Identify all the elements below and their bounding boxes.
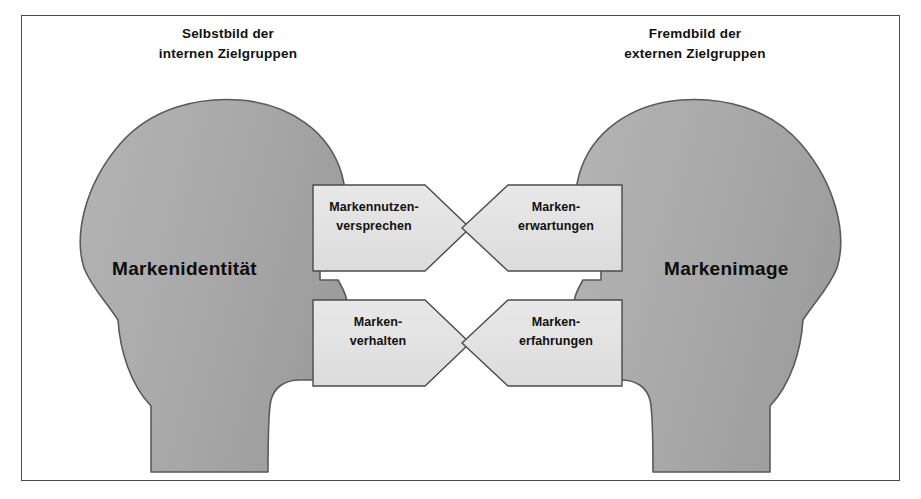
caption-internal-target-groups: Selbstbild der internen Zielgruppen [78,24,378,63]
label-markennutzenversprechen: Markennutzen- versprechen [315,198,433,236]
label-markenerfahrungen: Marken- erfahrungen [492,313,620,351]
diagram-graphics [0,0,921,499]
left-head-silhouette [80,100,348,472]
label-markenimage: Markenimage [664,258,789,280]
label-markenidentitaet: Markenidentität [112,258,257,280]
right-head-silhouette [573,100,841,472]
label-markenverhalten: Marken- verhalten [323,313,433,351]
label-markenerwartungen: Marken- erwartungen [497,198,615,236]
caption-external-target-groups: Fremdbild der externen Zielgruppen [545,24,845,63]
brand-identity-image-diagram: Selbstbild der internen Zielgruppen Frem… [0,0,921,499]
